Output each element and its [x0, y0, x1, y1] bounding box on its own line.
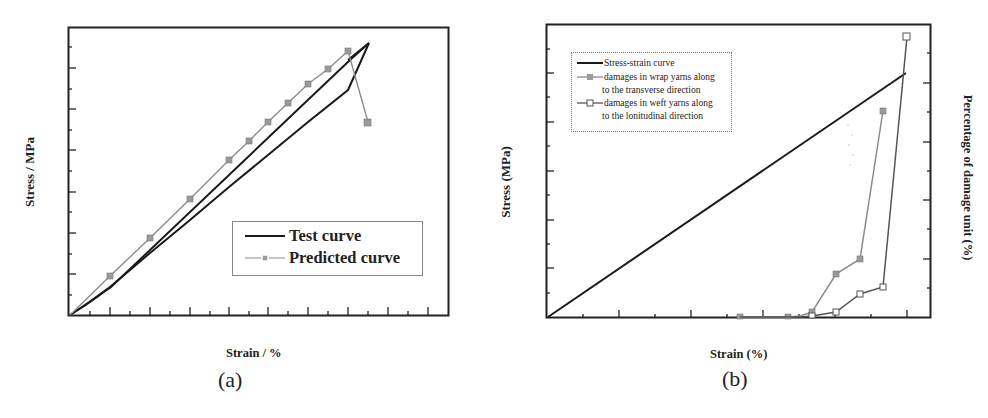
- legend-label-wrap-yarns-line2: to the transverse direction: [602, 85, 700, 95]
- chart-b-y-axis-label-left: Stress (MPa): [498, 132, 514, 232]
- legend-filled-square-icon: [577, 73, 603, 81]
- legend-label-weft-yarns-line2: to the lonitudinal direction: [602, 111, 703, 121]
- legend-open-square-icon: [577, 99, 603, 107]
- weft-yarn-damage-curve: [740, 37, 907, 317]
- legend-label-predicted-curve: Predicted curve: [289, 248, 400, 268]
- legend-item-wrap-yarns: damages in wrap yarns along: [577, 72, 715, 82]
- legend-label-stress-strain: Stress-strain curve: [604, 58, 674, 68]
- chart-panel-b: Stress (MPa) Percentage of damage unit (…: [494, 0, 988, 418]
- chart-a-x-axis-label: Strain / %: [226, 346, 282, 361]
- weft-yarn-markers: [809, 33, 910, 318]
- wrap-yarn-markers: [737, 108, 886, 319]
- chart-a-x-ticks: [90, 307, 428, 315]
- legend-item-weft-yarns: damages in weft yarns along: [577, 98, 713, 108]
- legend-label-weft-yarns: damages in weft yarns along: [604, 98, 713, 108]
- legend-item-stress-strain: Stress-strain curve: [577, 58, 674, 68]
- chart-b-y-axis-label-right: Percentage of damage unit (%): [960, 78, 975, 278]
- legend-item-test-curve: Test curve: [245, 225, 361, 247]
- legend-item-predicted-curve: Predicted curve: [245, 247, 400, 269]
- wrap-yarn-damage-curve: [740, 111, 883, 317]
- chart-a-y-axis-label: Stress / MPa: [22, 122, 38, 222]
- legend-label-test-curve: Test curve: [289, 226, 361, 246]
- chart-b-x-axis-label: Strain (%): [710, 347, 767, 362]
- chart-a-legend: Test curve Predicted curve: [232, 221, 423, 276]
- legend-label-wrap-yarns: damages in wrap yarns along: [604, 72, 715, 82]
- legend-solid-line-icon: [577, 59, 603, 67]
- legend-square-marker-line-icon: [245, 253, 285, 263]
- legend-solid-line-icon: [245, 231, 285, 241]
- chart-b-sublabel: (b): [722, 366, 748, 392]
- chart-b-legend: Stress-strain curve damages in wrap yarn…: [571, 52, 732, 132]
- chart-panel-a: Stress / MPa Strain / % (a) Test curve P…: [0, 0, 494, 418]
- chart-b-artifact: [847, 124, 854, 166]
- chart-a-sublabel: (a): [218, 367, 242, 393]
